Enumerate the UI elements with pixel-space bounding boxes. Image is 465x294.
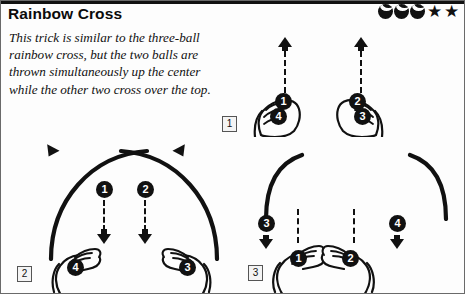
ball-1: 1 <box>96 181 113 198</box>
star-icon: ★ <box>444 4 459 19</box>
star-icon: ★ <box>427 4 442 19</box>
arrow-stem <box>358 45 364 51</box>
ball-2: 2 <box>342 250 359 267</box>
ball-icon <box>378 4 393 19</box>
ball-4: 4 <box>270 108 287 125</box>
ball-icon <box>394 4 409 19</box>
ball-1: 1 <box>290 250 307 267</box>
arrow-down-icon <box>138 234 152 244</box>
page-title: Rainbow Cross <box>8 5 122 23</box>
ball-3: 3 <box>179 259 196 276</box>
ball-3: 3 <box>258 215 275 232</box>
ball-4: 4 <box>67 259 84 276</box>
ball-icon <box>410 4 425 19</box>
trick-page: Rainbow Cross ★ ★ This trick is similar … <box>0 0 465 294</box>
descending-arcs <box>256 151 456 221</box>
ball-4: 4 <box>389 215 406 232</box>
panel-label-2: 2 <box>17 266 32 282</box>
ball-2: 2 <box>137 181 154 198</box>
difficulty-rating: ★ ★ <box>378 4 459 19</box>
arrow-down-icon <box>390 239 404 249</box>
panel-label-3: 3 <box>248 265 263 281</box>
arrow-stem <box>282 45 288 51</box>
panel-label-1: 1 <box>222 116 237 132</box>
ball-3: 3 <box>354 108 371 125</box>
trick-description: This trick is similar to the three-ball … <box>9 29 224 98</box>
